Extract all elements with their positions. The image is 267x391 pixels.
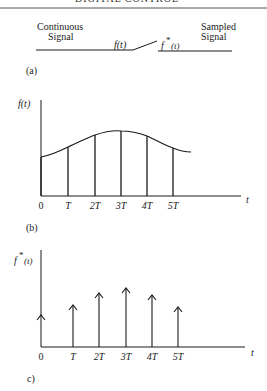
b-x-axis-label: t bbox=[246, 195, 249, 205]
b-tick-2: 2T bbox=[86, 201, 104, 211]
continuous-label-line2: Signal bbox=[48, 32, 74, 42]
sampled-label-line2: Signal bbox=[201, 32, 227, 42]
output-symbol-t: (t) bbox=[171, 41, 180, 51]
c-tick-2: 2T bbox=[90, 352, 108, 362]
output-symbol-f: f bbox=[161, 41, 164, 51]
impulse-train-plot bbox=[37, 250, 245, 347]
panel-a-label: (a) bbox=[26, 66, 37, 76]
b-tick-3: 3T bbox=[112, 201, 130, 211]
b-tick-0: 0 bbox=[34, 201, 48, 211]
panel-b-label: (b) bbox=[26, 223, 38, 233]
c-y-axis-t: (t) bbox=[24, 256, 33, 266]
c-tick-4: 4T bbox=[143, 352, 161, 362]
sampler-switch bbox=[36, 41, 232, 51]
signal-curve bbox=[41, 131, 191, 157]
c-x-axis-label: t bbox=[251, 348, 254, 358]
impulse-arrows bbox=[37, 288, 182, 347]
output-symbol-star: * bbox=[166, 35, 171, 45]
b-tick-5: 5T bbox=[164, 201, 182, 211]
continuous-signal-plot bbox=[41, 100, 241, 196]
b-y-axis-label: f(t) bbox=[18, 99, 30, 109]
input-symbol: f(t) bbox=[114, 40, 126, 50]
c-tick-0: 0 bbox=[34, 352, 48, 362]
b-tick-4: 4T bbox=[138, 201, 156, 211]
page-header: DIGITAL CONTROL bbox=[75, 0, 179, 4]
c-y-axis-star: * bbox=[19, 250, 24, 260]
switch-arm bbox=[133, 41, 157, 50]
c-y-axis-f: f bbox=[14, 256, 17, 266]
c-tick-3: 3T bbox=[117, 352, 135, 362]
sample-lines bbox=[41, 131, 173, 196]
b-tick-1: T bbox=[61, 201, 75, 211]
c-tick-1: T bbox=[66, 352, 80, 362]
diagram-canvas bbox=[0, 0, 267, 391]
panel-c-label: c) bbox=[27, 374, 35, 384]
c-tick-5: 5T bbox=[169, 352, 187, 362]
